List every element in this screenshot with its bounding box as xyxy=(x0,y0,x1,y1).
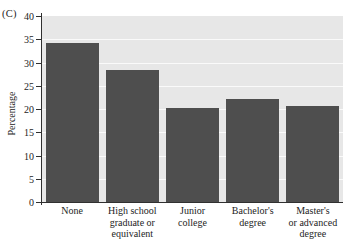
x-axis-tick-labels: NoneHigh schoolgraduate orequivalentJuni… xyxy=(42,205,343,245)
x-axis-tick-label-line: High school xyxy=(102,205,162,217)
y-axis-tick xyxy=(36,109,41,110)
bar xyxy=(166,108,219,202)
y-axis-tick-labels: 0510152025303540 xyxy=(0,0,34,245)
y-axis-tick-label: 30 xyxy=(0,57,34,68)
x-axis-tick-label-line: degree xyxy=(283,228,343,240)
plot-area xyxy=(42,16,343,202)
y-axis-tick xyxy=(36,16,41,17)
figure-panel-c: (C) Percentage 0510152025303540 NoneHigh… xyxy=(0,0,345,245)
y-axis-tick xyxy=(36,156,41,157)
x-axis-tick-label-line: graduate or xyxy=(102,217,162,229)
y-axis-tick xyxy=(36,63,41,64)
x-axis-tick-label-line: degree xyxy=(223,217,283,229)
y-axis-tick-label: 5 xyxy=(0,173,34,184)
y-axis-tick-label: 0 xyxy=(0,197,34,208)
bar xyxy=(46,43,99,202)
x-axis-tick-label-line: college xyxy=(162,217,222,229)
y-axis-tick-label: 35 xyxy=(0,34,34,45)
y-axis-tick-label: 10 xyxy=(0,150,34,161)
y-axis-tick xyxy=(36,202,41,203)
x-axis-tick-label-line: or advanced xyxy=(283,217,343,229)
x-axis-tick-label: High schoolgraduate orequivalent xyxy=(102,205,162,240)
y-axis-tick xyxy=(36,86,41,87)
bar xyxy=(286,106,339,202)
x-axis-tick-label-line: None xyxy=(42,205,102,217)
y-axis-tick-label: 20 xyxy=(0,104,34,115)
gridline xyxy=(42,39,343,40)
y-axis-tick-label: 15 xyxy=(0,127,34,138)
y-axis-tick xyxy=(36,179,41,180)
y-axis-tick-label: 25 xyxy=(0,80,34,91)
x-axis-tick-label: Bachelor'sdegree xyxy=(223,205,283,228)
bar xyxy=(106,70,159,202)
x-axis-tick-label-line: Master's xyxy=(283,205,343,217)
x-axis-tick-label-line: Junior xyxy=(162,205,222,217)
x-axis-line xyxy=(41,202,343,203)
y-axis-tick xyxy=(36,132,41,133)
x-axis-tick-label: Juniorcollege xyxy=(162,205,222,228)
plot-inner xyxy=(42,16,343,202)
y-axis-tick xyxy=(36,39,41,40)
x-axis-tick-label: None xyxy=(42,205,102,217)
x-axis-tick-label-line: equivalent xyxy=(102,228,162,240)
y-axis-tick-label: 40 xyxy=(0,11,34,22)
x-axis-tick-label-line: Bachelor's xyxy=(223,205,283,217)
bar xyxy=(226,99,279,202)
x-axis-tick-label: Master'sor advanceddegree xyxy=(283,205,343,240)
